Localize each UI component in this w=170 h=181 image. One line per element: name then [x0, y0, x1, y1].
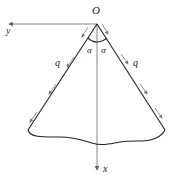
angle-arc-right	[97, 38, 107, 42]
load-arrow-left-1	[82, 27, 88, 37]
wedge-diagram: O y x α α q q	[0, 0, 170, 181]
right-edge	[97, 24, 165, 130]
angle-label-right: α	[101, 45, 106, 55]
x-axis-label: x	[102, 163, 108, 174]
angle-arc-left	[88, 38, 97, 42]
load-label-right: q	[133, 57, 138, 68]
left-edge	[28, 24, 97, 130]
origin-label: O	[92, 4, 100, 16]
angle-label-left: α	[87, 45, 92, 55]
bottom-boundary	[28, 130, 165, 145]
load-label-left: q	[55, 57, 60, 68]
y-axis-label: y	[5, 25, 11, 36]
